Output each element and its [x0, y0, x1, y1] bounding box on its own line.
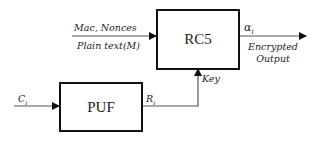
output-symbol-label: αi	[244, 22, 254, 36]
puf-label: PUF	[87, 99, 115, 116]
challenge-label: Ci	[18, 94, 27, 106]
rc5-label: RC5	[184, 31, 212, 48]
input-label-plaintext: Plain text(M)	[77, 41, 140, 51]
key-label: Key	[202, 74, 220, 84]
puf-block: PUF	[59, 82, 143, 132]
diagram-canvas: RC5 PUF Mac, Nonces Plain text(M) Ci Ri …	[0, 0, 321, 141]
response-label: Ri	[146, 94, 155, 106]
rc5-block: RC5	[156, 9, 240, 70]
encrypted-output-label: Encrypted Output	[244, 42, 302, 63]
input-label-mac-nonces: Mac, Nonces	[74, 23, 137, 33]
